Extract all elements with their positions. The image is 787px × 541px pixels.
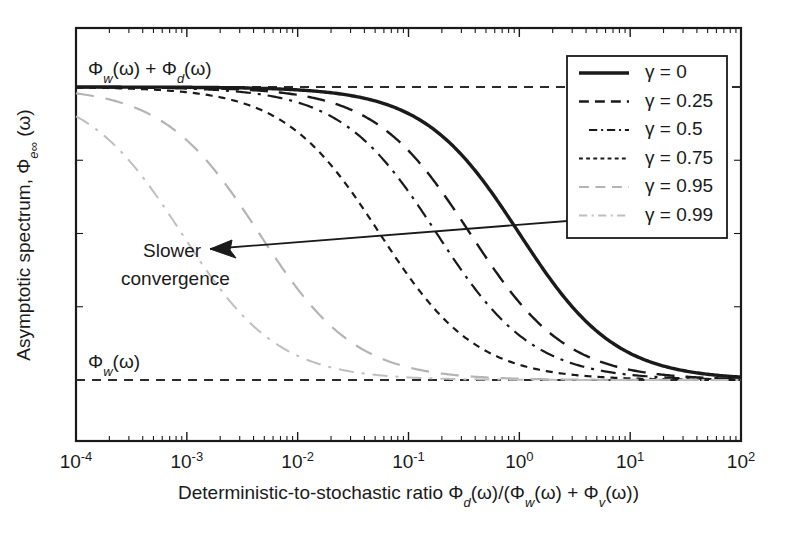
x-tick-label: 101: [616, 449, 644, 473]
x-tick-label: 102: [727, 449, 755, 473]
x-tick-label: 10-4: [60, 449, 93, 473]
legend-label-0: γ = 0: [645, 61, 687, 82]
legend-label-0p75: γ = 0.75: [645, 147, 713, 168]
slower-convergence-line2: convergence: [121, 268, 230, 289]
upper-asymptote-label: Φw(ω) + Φd(ω): [88, 58, 212, 86]
y-axis-label: Asymptotic spectrum, Φe∞ (ω): [13, 109, 41, 360]
x-axis-label: Deterministic-to-stochastic ratio Φd(ω)/…: [178, 482, 639, 510]
x-tick-label: 100: [505, 449, 533, 473]
slower-convergence-line1: Slower: [143, 240, 202, 261]
legend-label-0p99: γ = 0.99: [645, 204, 713, 225]
x-tick-label: 10-1: [392, 449, 425, 473]
slower-convergence-arrow-line: [210, 219, 593, 249]
asymptotic-spectrum-chart: 10-410-310-210-1100101102Deterministic-t…: [0, 0, 787, 541]
legend-label-0p95: γ = 0.95: [645, 175, 713, 196]
legend-label-0p25: γ = 0.25: [645, 90, 713, 111]
x-tick-label: 10-2: [281, 449, 314, 473]
chart-figure: 10-410-310-210-1100101102Deterministic-t…: [0, 0, 787, 541]
slower-convergence-arrowhead: [210, 240, 236, 258]
legend-label-0p5: γ = 0.5: [645, 118, 703, 139]
x-tick-label: 10-3: [170, 449, 203, 473]
lower-asymptote-label: Φw(ω): [88, 351, 140, 379]
